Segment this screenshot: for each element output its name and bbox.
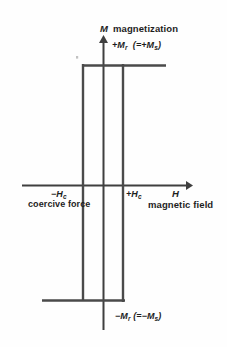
- positive-saturation-subscript: s: [154, 44, 158, 51]
- magnetic-field-label: magnetic field: [148, 200, 213, 210]
- negative-saturation-open: (=−M: [133, 311, 154, 321]
- m-axis-symbol-label: M: [100, 24, 108, 34]
- scan-speck: [76, 56, 78, 59]
- h-axis-arrowhead-icon: [186, 181, 193, 190]
- negative-saturation-subscript: s: [155, 315, 159, 322]
- coercive-force-label: coercive force: [28, 200, 90, 209]
- negative-saturation-close: ): [158, 311, 161, 321]
- positive-coercivity-subscript: c: [138, 193, 142, 200]
- m-axis-arrowhead-icon: [99, 35, 108, 43]
- positive-coercivity-label: +Hc: [126, 190, 142, 199]
- positive-saturation-open: (=+M: [133, 40, 154, 50]
- positive-remanence-subscript: r: [125, 44, 128, 51]
- hysteresis-loop-drawing: [0, 0, 227, 347]
- positive-remanence-label: +Mr (=+Ms): [112, 41, 161, 50]
- negative-remanence-subscript: r: [128, 315, 131, 322]
- magnetization-label: magnetization: [113, 24, 178, 34]
- positive-coercivity-symbol: +H: [126, 189, 138, 199]
- h-axis-group: [22, 181, 193, 190]
- negative-coercivity-symbol: −H: [51, 189, 63, 199]
- negative-remanence-symbol: −M: [115, 311, 128, 321]
- positive-saturation-close: ): [158, 40, 161, 50]
- m-axis-group: [99, 35, 108, 330]
- hysteresis-loop-figure: M magnetization +Mr (=+Ms) −Hc coercive …: [0, 0, 227, 347]
- h-axis-symbol-label: H: [172, 189, 179, 199]
- negative-remanence-label: −Mr (=−Ms): [115, 312, 161, 321]
- positive-remanence-symbol: +M: [112, 40, 125, 50]
